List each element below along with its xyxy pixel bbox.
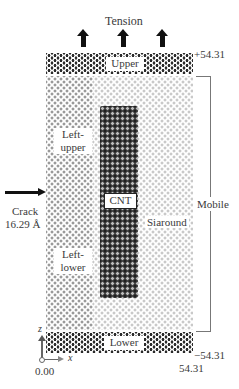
- cnt-label: CNT: [104, 193, 137, 209]
- crack-label: Crack: [12, 205, 38, 217]
- z-axis-label: z: [38, 323, 42, 335]
- arrow-head: [38, 188, 46, 196]
- siaround-label: Siaround: [145, 216, 189, 228]
- arrow-shaft: [81, 35, 86, 47]
- tension-label: Tension: [105, 15, 143, 27]
- left-upper-label: Left- upper: [54, 128, 92, 154]
- x-axis-label: x: [68, 352, 72, 364]
- origin-marker-icon: [39, 357, 45, 363]
- arrow-shaft: [160, 35, 165, 47]
- x-axis-arrow-icon: [58, 356, 64, 362]
- left-lower-label-line1: Left-: [57, 248, 89, 261]
- crack-arrow-right-icon: [5, 189, 47, 197]
- left-region: [46, 76, 93, 330]
- crack-width-label: 16.29 Å: [5, 218, 40, 230]
- left-upper-label-line2: upper: [57, 141, 89, 154]
- z-bottom-coordinate: −54.31: [194, 349, 225, 361]
- lower-label: Lower: [104, 336, 144, 350]
- origin-coordinate: 0.00: [35, 365, 54, 377]
- z-axis-arrow-icon: [38, 335, 46, 341]
- left-lower-label-line2: lower: [57, 261, 89, 274]
- tension-arrow-up-icon: [119, 29, 128, 47]
- arrow-shaft: [5, 191, 39, 194]
- arrow-shaft: [121, 35, 126, 47]
- upper-label: Upper: [106, 57, 144, 71]
- mobile-label: Mobile: [196, 197, 230, 211]
- z-top-coordinate: +54.31: [194, 48, 225, 60]
- x-max-coordinate: 54.31: [179, 362, 204, 374]
- left-lower-label: Left- lower: [54, 248, 92, 274]
- tension-arrow-up-icon: [79, 29, 88, 47]
- tension-arrow-up-icon: [158, 29, 167, 47]
- left-upper-label-line1: Left-: [57, 128, 89, 141]
